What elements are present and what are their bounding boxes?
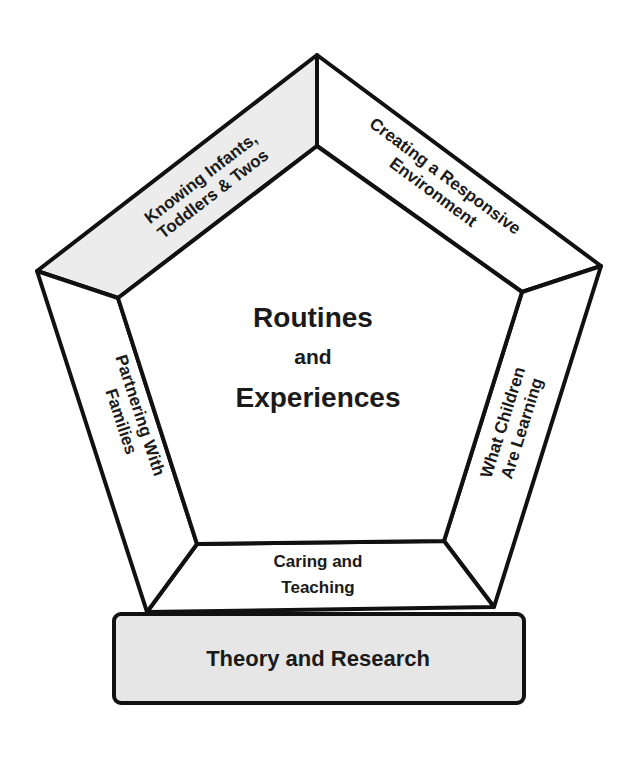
center-title-line3: Experiences — [236, 382, 401, 413]
center-title-line1: Routines — [253, 302, 373, 333]
panel-bottom-label-line2: Teaching — [281, 578, 354, 597]
pentagon-diagram: Routines and Experiences Knowing Infants… — [0, 0, 631, 757]
base-label: Theory and Research — [206, 646, 430, 671]
center-title-line2: and — [294, 345, 331, 368]
panel-bottom-label-line1: Caring and — [274, 552, 363, 571]
